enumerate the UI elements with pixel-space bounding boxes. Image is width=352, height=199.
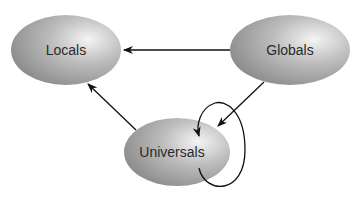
edge-universals-to-locals: [88, 84, 136, 130]
node-label: Globals: [266, 42, 313, 58]
node-locals: Locals: [11, 15, 121, 85]
node-universals: Universals: [124, 118, 230, 186]
scope-diagram: Locals Globals Universals: [0, 0, 352, 199]
node-globals: Globals: [230, 15, 350, 85]
node-label: Universals: [139, 144, 204, 160]
node-label: Locals: [46, 42, 86, 58]
